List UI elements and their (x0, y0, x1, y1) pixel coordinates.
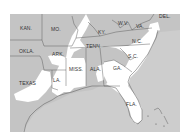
label-sc: S.C. (128, 53, 138, 59)
label-ky: KY. (98, 29, 106, 35)
label-wv: W.V. (118, 20, 129, 26)
label-kan: KAN. (20, 25, 32, 31)
label-ga: GA. (113, 65, 122, 71)
southeast-us-map: KAN. MO. KY. W.V. VA. DEL. OKLA. ARK. TE… (0, 0, 186, 137)
label-mo: MO. (51, 26, 61, 32)
label-tenn: TENN. (86, 43, 102, 49)
label-ark: ARK. (52, 51, 64, 57)
label-okla: OKLA. (19, 48, 34, 54)
label-miss: MISS. (69, 66, 83, 72)
label-fla: FLA. (126, 101, 137, 107)
label-va: VA. (136, 23, 144, 29)
label-del: DEL. (159, 13, 171, 19)
label-nc: N.C. (132, 38, 142, 44)
label-texas: TEXAS (19, 80, 36, 86)
label-la: LA. (53, 77, 61, 83)
label-ala: ALA. (90, 66, 101, 72)
